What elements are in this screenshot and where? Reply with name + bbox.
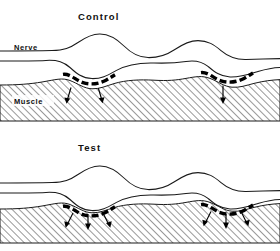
- label-nerve-control: Nerve: [14, 43, 38, 52]
- panel-test: Test: [0, 142, 280, 243]
- panel-control: Control Nerve Muscle: [0, 11, 280, 121]
- muscle-region-test: [0, 201, 280, 243]
- panel-title-test: Test: [78, 142, 101, 153]
- label-muscle-control-group: Muscle: [12, 95, 54, 106]
- neuromuscular-junction-diagram: Control Nerve Muscle: [0, 0, 280, 251]
- panel-title-control: Control: [78, 11, 119, 22]
- nerve-lower-membrane-control: [0, 60, 280, 78]
- label-muscle-control: Muscle: [14, 97, 43, 106]
- nerve-upper-membrane-control: [0, 34, 280, 59]
- nerve-upper-membrane-test: [0, 166, 280, 191]
